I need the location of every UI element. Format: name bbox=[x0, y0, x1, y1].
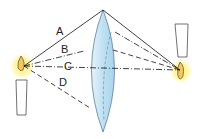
optics-diagram: A B C D bbox=[0, 0, 201, 139]
label-a: A bbox=[56, 25, 64, 37]
convex-lens bbox=[92, 10, 115, 132]
image-candle bbox=[170, 24, 192, 83]
object-candle bbox=[10, 53, 34, 115]
label-d: D bbox=[59, 76, 67, 88]
label-b: B bbox=[61, 43, 68, 55]
label-c: C bbox=[64, 60, 72, 72]
